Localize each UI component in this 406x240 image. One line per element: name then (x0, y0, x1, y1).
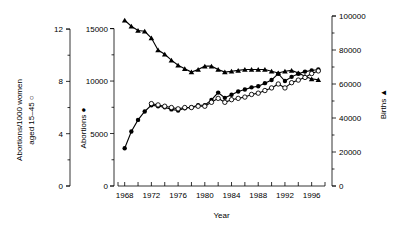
axis-tick-label: 4 (59, 130, 64, 139)
abortions-births-line-chart: 04812 050001000015000 020000400006000080… (0, 0, 406, 240)
axis-tick-label: 20000 (339, 148, 362, 157)
axis-tick-label: 10000 (86, 77, 109, 86)
series-layer (122, 18, 321, 151)
x-tick-label: 1976 (169, 191, 187, 200)
axis-tick-label: 80000 (339, 46, 362, 55)
series-filled-triangle (122, 18, 321, 82)
rate-axis: 04812 (54, 25, 70, 191)
x-tick-label: 1996 (303, 191, 321, 200)
axis-tick-label: 12 (54, 25, 63, 34)
x-tick-label: 1968 (116, 191, 134, 200)
abortions-axis-title: Abortions ● (79, 107, 88, 148)
series-filled-circle (122, 67, 320, 150)
axis-tick-label: 0 (59, 182, 64, 191)
x-axis-title: Year (213, 211, 230, 220)
axis-tick-label: 100000 (339, 12, 366, 21)
x-tick-label: 1980 (196, 191, 214, 200)
chart-figure: 04812 050001000015000 020000400006000080… (0, 0, 406, 240)
x-axis: 19681972197619801984198819921996 (116, 182, 325, 200)
births-axis-title: Births ▲ (379, 89, 388, 120)
x-tick-label: 1984 (223, 191, 241, 200)
axis-tick-label: 8 (59, 77, 64, 86)
axis-tick-label: 15000 (86, 25, 109, 34)
axis-tick-label: 0 (104, 182, 109, 191)
axis-tick-label: 0 (339, 182, 344, 191)
x-tick-label: 1992 (276, 191, 294, 200)
axis-tick-label: 5000 (90, 130, 108, 139)
axis-tick-label: 60000 (339, 80, 362, 89)
births-axis: 020000400006000080000100000 (332, 12, 366, 191)
x-tick-label: 1972 (142, 191, 160, 200)
rate-axis-title: Abortions/1000 women (15, 79, 24, 161)
abortions-axis: 050001000015000 (86, 25, 114, 191)
axis-tick-label: 40000 (339, 114, 362, 123)
x-tick-label: 1988 (249, 191, 267, 200)
rate-axis-title: aged 15–45 ○ (27, 95, 36, 144)
